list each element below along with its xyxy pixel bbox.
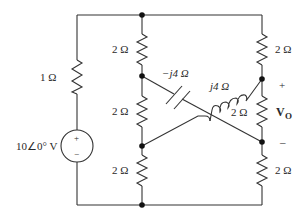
- right-resistor-top: [257, 34, 267, 65]
- capacitor-label: −j4 Ω: [162, 67, 189, 79]
- left-resistor-label: 1 Ω: [40, 71, 56, 83]
- source-plus-sign: +: [74, 133, 79, 143]
- right-resistor-mid: [257, 96, 267, 127]
- right-bottom-resistor-label: 2 Ω: [275, 164, 291, 176]
- mid-resistor-top: [137, 34, 147, 65]
- node-mid-upper: [139, 73, 145, 79]
- mid-resistor-mid: [137, 96, 147, 127]
- inductor-lead-left: [142, 116, 210, 146]
- vo-subscript: O: [285, 111, 292, 121]
- node-top-mid: [139, 12, 145, 18]
- node-mid-lower: [139, 143, 145, 149]
- source-minus-sign: −: [74, 149, 79, 159]
- mid-resistor-bottom: [137, 155, 147, 186]
- capacitor-plate-1: [166, 86, 182, 104]
- capacitor-plate-2: [174, 91, 190, 109]
- right-resistor-bottom: [257, 155, 267, 186]
- inductor-label: j4 Ω: [208, 80, 229, 92]
- vo-label: V: [276, 105, 285, 119]
- cap-lead-right: [182, 99, 262, 142]
- left-resistor-1ohm: [72, 60, 82, 94]
- vo-minus-sign: –: [279, 136, 286, 148]
- mid-mid-resistor-label: 2 Ω: [112, 105, 128, 117]
- right-top-resistor-label: 2 Ω: [275, 43, 291, 55]
- circuit-diagram: 1 Ω 10∠0° V + − 2 Ω 2 Ω 2 Ω 2 Ω 2 Ω 2 Ω …: [0, 0, 307, 222]
- node-right-upper: [259, 76, 265, 82]
- source-label: 10∠0° V: [16, 140, 57, 152]
- mid-top-resistor-label: 2 Ω: [112, 43, 128, 55]
- mid-bottom-resistor-label: 2 Ω: [112, 164, 128, 176]
- node-bottom-mid: [139, 202, 145, 208]
- vo-plus-sign: +: [279, 79, 285, 91]
- node-right-lower: [259, 139, 265, 145]
- right-mid-resistor-label: 2 Ω: [231, 106, 247, 118]
